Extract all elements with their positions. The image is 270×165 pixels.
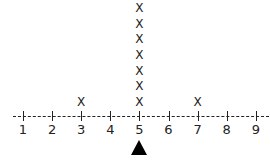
axis-tick [81,111,82,121]
dot-plot: 123456789 XXXXXXXXX [0,0,270,165]
tick-label: 1 [13,123,33,137]
axis-tick [110,111,111,121]
x-mark: X [132,2,146,14]
tick-label: 8 [217,123,237,137]
balance-point-triangle-icon [131,140,147,155]
x-mark: X [132,33,146,45]
tick-label: 6 [159,123,179,137]
axis-tick [169,111,170,121]
tick-label: 2 [42,123,62,137]
axis-tick [52,111,53,121]
x-mark: X [132,80,146,92]
x-mark: X [132,18,146,30]
x-mark: X [132,49,146,61]
axis-tick [23,111,24,121]
tick-label: 5 [129,123,149,137]
x-mark: X [132,65,146,77]
x-mark: X [191,96,205,108]
axis-tick [256,111,257,121]
axis-tick [198,111,199,121]
tick-label: 7 [188,123,208,137]
axis-tick [139,111,140,121]
x-mark: X [74,96,88,108]
x-mark: X [132,96,146,108]
axis-tick [227,111,228,121]
tick-label: 9 [246,123,266,137]
tick-label: 3 [71,123,91,137]
tick-label: 4 [100,123,120,137]
